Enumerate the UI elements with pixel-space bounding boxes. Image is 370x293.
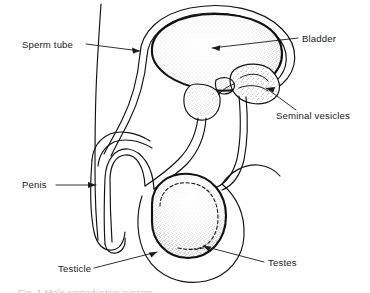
cord-arch-right xyxy=(222,165,280,184)
figure-root: Sperm tube Bladder Seminal vesicles Peni… xyxy=(0,0,370,293)
leader-sperm-tube xyxy=(86,44,140,53)
label-sperm-tube: Sperm tube xyxy=(22,39,73,50)
spermatic-cord-inner xyxy=(217,96,240,187)
label-testes: Testes xyxy=(268,257,297,268)
penis-urethra-loop-outer xyxy=(110,155,145,242)
label-seminal-vesicles: Seminal vesicles xyxy=(276,110,350,121)
label-penis: Penis xyxy=(22,179,47,190)
anatomical-diagram: Sperm tube Bladder Seminal vesicles Peni… xyxy=(0,0,370,293)
label-testicle: Testicle xyxy=(58,263,91,274)
leader-testicle xyxy=(94,252,157,268)
figure-caption-clipped: Fig. 1 Male reproductive system xyxy=(18,287,153,293)
body-wall-contour xyxy=(95,4,101,240)
penis-upper-contour-2 xyxy=(98,140,152,166)
leader-testes xyxy=(203,246,264,262)
vas-deferens-descending-outer xyxy=(104,54,140,154)
spermatic-cord-outer xyxy=(222,97,247,190)
label-bladder: Bladder xyxy=(302,33,337,44)
leader-penis xyxy=(56,182,96,188)
penis-glans xyxy=(105,238,125,253)
